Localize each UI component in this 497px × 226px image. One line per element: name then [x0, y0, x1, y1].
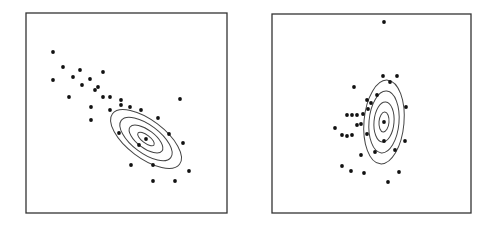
- data-point: [393, 148, 397, 152]
- data-point: [355, 113, 359, 117]
- data-point: [51, 50, 55, 54]
- data-point: [101, 95, 105, 99]
- data-point: [395, 74, 399, 78]
- data-point: [373, 150, 377, 154]
- data-point: [67, 95, 71, 99]
- data-point: [345, 113, 349, 117]
- data-point: [345, 134, 349, 138]
- data-point: [119, 98, 123, 102]
- data-point: [181, 141, 185, 145]
- plot-frame: [272, 14, 471, 213]
- data-point: [101, 70, 105, 74]
- data-point: [144, 137, 148, 141]
- data-point: [80, 83, 84, 87]
- data-point: [119, 103, 123, 107]
- data-point: [340, 133, 344, 137]
- data-point: [151, 163, 155, 167]
- data-point: [355, 123, 359, 127]
- data-point: [369, 101, 373, 105]
- data-point: [173, 179, 177, 183]
- data-point: [359, 122, 363, 126]
- data-point: [375, 93, 379, 97]
- data-point: [340, 164, 344, 168]
- figure: [0, 0, 497, 226]
- data-point: [78, 68, 82, 72]
- data-point: [404, 105, 408, 109]
- data-point: [61, 65, 65, 69]
- data-point: [382, 139, 386, 143]
- data-point: [151, 179, 155, 183]
- plot-frame: [26, 13, 227, 213]
- data-point: [381, 74, 385, 78]
- data-point: [382, 120, 386, 124]
- data-point: [117, 131, 121, 135]
- data-point: [89, 118, 93, 122]
- data-point: [366, 107, 370, 111]
- data-point: [96, 85, 100, 89]
- data-point: [359, 153, 363, 157]
- data-point: [349, 169, 353, 173]
- data-point: [350, 113, 354, 117]
- data-point: [333, 126, 337, 130]
- data-point: [362, 171, 366, 175]
- scatter-panel-left: [26, 13, 227, 213]
- data-point: [352, 85, 356, 89]
- data-point: [139, 108, 143, 112]
- data-point: [187, 169, 191, 173]
- data-point: [128, 105, 132, 109]
- data-point: [397, 170, 401, 174]
- data-point: [388, 80, 392, 84]
- data-point: [89, 105, 93, 109]
- data-point: [382, 20, 386, 24]
- data-point: [365, 98, 369, 102]
- data-point: [108, 108, 112, 112]
- data-point: [167, 132, 171, 136]
- scatter-panel-right: [272, 14, 471, 213]
- data-point: [88, 77, 92, 81]
- data-point: [71, 75, 75, 79]
- data-point: [178, 97, 182, 101]
- data-point: [386, 180, 390, 184]
- data-point: [156, 116, 160, 120]
- data-point: [108, 95, 112, 99]
- data-point: [361, 112, 365, 116]
- data-point: [93, 88, 97, 92]
- data-point: [365, 132, 369, 136]
- data-point: [51, 78, 55, 82]
- data-point: [137, 143, 141, 147]
- data-point: [403, 139, 407, 143]
- data-point: [350, 133, 354, 137]
- data-point: [129, 163, 133, 167]
